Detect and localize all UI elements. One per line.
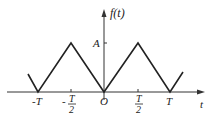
y-axis-arrow-icon xyxy=(102,9,107,17)
amplitude-label: A xyxy=(92,37,100,49)
tick-label-half-num: T xyxy=(136,93,143,104)
tick-label-neg-t: -T xyxy=(32,95,43,107)
waveform xyxy=(28,43,183,92)
triangular-wave-diagram: f(t) A t O -T - T 2 T 2 T xyxy=(0,0,208,121)
x-axis-arrow-icon xyxy=(197,90,205,95)
tick-label-half-den: 2 xyxy=(136,104,141,115)
origin-label: O xyxy=(100,95,108,107)
tick-label-neg-half-num: T xyxy=(69,93,76,104)
x-axis-label: t xyxy=(200,98,204,110)
y-axis-label: f(t) xyxy=(110,6,125,20)
tick-label-t: T xyxy=(166,95,173,107)
tick-label-neg-half-sign: - xyxy=(62,95,66,107)
tick-label-neg-half-den: 2 xyxy=(69,104,74,115)
